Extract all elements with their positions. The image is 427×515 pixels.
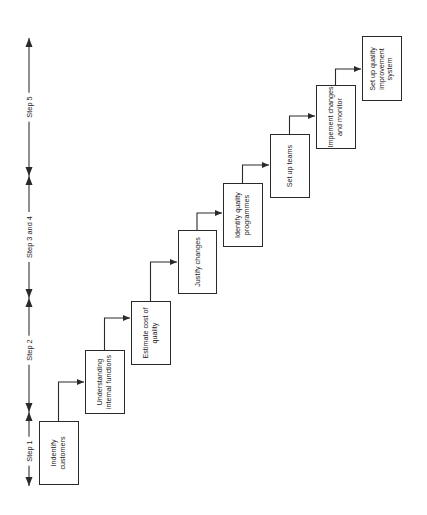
box-label: Impement changes and monitor bbox=[327, 86, 344, 148]
connector-6-7 bbox=[290, 116, 316, 134]
box-label: Set up teams bbox=[286, 135, 295, 197]
step-label-2: Step 2 bbox=[25, 335, 34, 364]
connector-2-3 bbox=[105, 318, 131, 350]
step-label-3-and-4: Step 3 and 4 bbox=[25, 212, 34, 262]
connector-3-4 bbox=[151, 262, 178, 301]
box-label: Estimate cost of quality bbox=[142, 302, 159, 364]
box-identify-customers: Indentify customers bbox=[39, 421, 79, 485]
box-label: Justify changes bbox=[193, 231, 202, 293]
box-label: Understanding internal functions bbox=[96, 351, 113, 413]
box-set-up-teams: Set up teams bbox=[270, 134, 310, 198]
step-label-1: Step 1 bbox=[25, 436, 34, 465]
connector-5-6 bbox=[243, 165, 270, 183]
box-understanding-internal-functions: Understanding internal functions bbox=[85, 350, 125, 414]
box-label: Set up quality improvement system bbox=[369, 38, 395, 100]
box-identify-quality-programmes: Identify quality programmes bbox=[223, 183, 263, 247]
step-label-5: Step 5 bbox=[25, 92, 34, 121]
box-implement-changes-and-monitor: Impement changes and monitor bbox=[316, 85, 356, 149]
connector-1-2 bbox=[59, 382, 85, 421]
connector-7-8 bbox=[336, 69, 362, 85]
box-label: Identify quality programmes bbox=[234, 184, 251, 246]
box-justify-changes: Justify changes bbox=[178, 230, 217, 294]
process-staircase-diagram: Step 5 Step 3 and 4 Step 2 Step 1 Indent… bbox=[0, 0, 427, 515]
box-estimate-cost-of-quality: Estimate cost of quality bbox=[131, 301, 171, 365]
box-label: Indentify customers bbox=[50, 422, 67, 484]
connector-4-5 bbox=[197, 213, 222, 230]
box-set-up-quality-improvement-system: Set up quality improvement system bbox=[362, 36, 402, 101]
